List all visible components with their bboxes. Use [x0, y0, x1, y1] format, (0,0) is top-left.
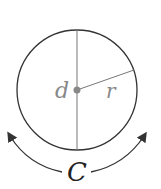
circumference-arrow-left: [10, 136, 62, 172]
radius-label: r: [106, 79, 117, 103]
circle-diagram: d r C: [0, 0, 161, 189]
circumference-arrow-right: [91, 136, 144, 172]
circumference-label: C: [67, 157, 87, 187]
center-dot: [74, 87, 81, 94]
diameter-label: d: [55, 78, 69, 103]
